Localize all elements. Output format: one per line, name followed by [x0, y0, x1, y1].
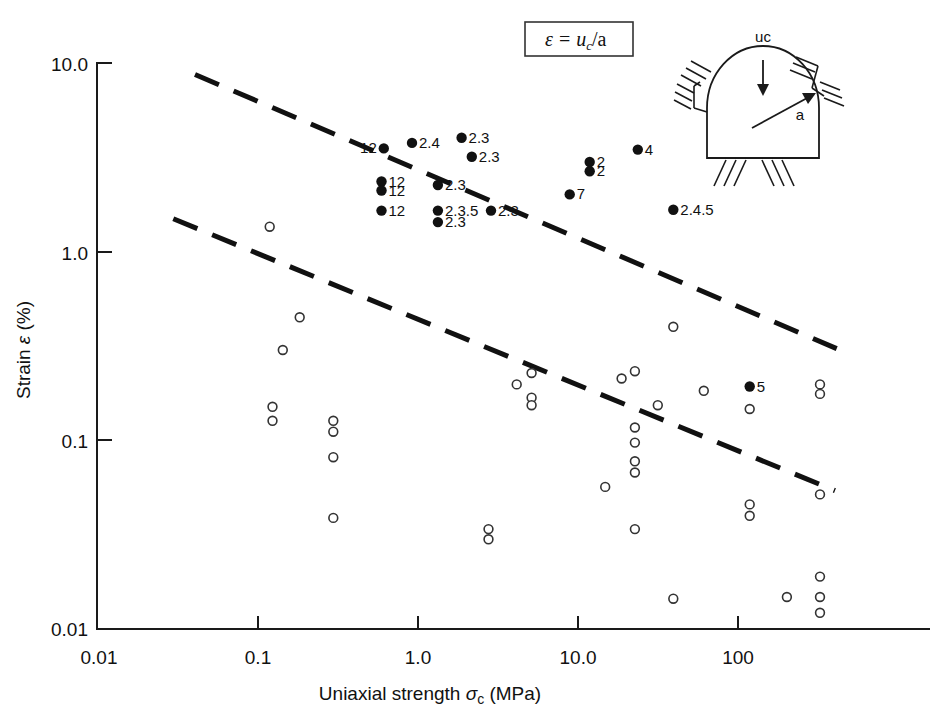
x-tick-label-2: 1.0 [405, 647, 431, 668]
filled-points-layer: 122.42.32.31212122.32.3.52.32.322742.4.5… [360, 129, 765, 395]
radius-arrow-head [802, 93, 816, 104]
y-axis-title-pre: Strain [13, 344, 34, 399]
data-point-filled-4 [376, 176, 386, 186]
equation-numerator: u [576, 28, 586, 50]
x-axis-title-post: (MPa) [484, 683, 541, 704]
svg-text:Uniaxial strength σc (MPa): Uniaxial strength σc (MPa) [319, 683, 541, 707]
data-point-open-24 [653, 401, 662, 410]
data-point-label-14: 4 [645, 141, 653, 158]
y-axis-title: Strain ε (%) [13, 301, 34, 399]
data-point-filled-2 [456, 133, 466, 143]
y-tick-label-2: 1.0 [62, 243, 88, 264]
data-point-filled-14 [633, 144, 643, 154]
data-point-label-12: 2 [597, 162, 605, 179]
data-point-open-0 [265, 222, 274, 231]
data-point-label-3: 2.3 [479, 148, 500, 165]
data-point-open-27 [745, 405, 754, 414]
data-point-open-18 [631, 423, 640, 432]
data-point-filled-0 [379, 143, 389, 153]
equation-epsilon: ε [545, 28, 553, 50]
data-point-filled-3 [467, 152, 477, 162]
data-point-open-16 [617, 374, 626, 383]
figure-root: 0.01 0.1 1.0 10.0 100 10.0 1.0 0.1 0.01 … [0, 0, 938, 716]
x-tick-label-3: 10.0 [560, 647, 597, 668]
axes-frame [97, 63, 930, 629]
data-point-label-2: 2.3 [469, 129, 490, 146]
data-point-label-10: 2.3 [498, 202, 519, 219]
data-point-filled-12 [585, 166, 595, 176]
x-tick-label-0: 0.01 [81, 647, 118, 668]
data-point-open-6 [329, 427, 338, 436]
y-tick-label-0: 0.01 [51, 619, 88, 640]
data-point-open-1 [295, 313, 304, 322]
data-point-label-16: 5 [757, 378, 765, 395]
data-point-open-17 [631, 367, 640, 376]
open-points-layer [265, 222, 824, 617]
data-point-open-35 [816, 593, 825, 602]
data-point-open-31 [816, 380, 825, 389]
equation-denominator: /a [592, 28, 607, 50]
uc-arrow-head [757, 84, 769, 96]
data-point-open-12 [527, 369, 536, 378]
data-point-filled-13 [565, 189, 575, 199]
x-axis-tick-labels: 0.01 0.1 1.0 10.0 100 [81, 647, 754, 668]
svg-text:Strain ε (%): Strain ε (%) [13, 301, 34, 399]
data-point-open-33 [816, 490, 825, 499]
data-point-label-7: 2.3 [445, 176, 466, 193]
data-point-open-25 [669, 594, 678, 603]
data-point-filled-11 [585, 157, 595, 167]
data-point-label-5: 12 [389, 182, 406, 199]
data-point-open-8 [329, 514, 338, 523]
tunnel-inset: uc a [674, 28, 844, 186]
y-tick-label-3: 10.0 [51, 54, 88, 75]
data-point-open-4 [268, 416, 277, 425]
data-point-open-23 [669, 322, 678, 331]
uc-label: uc [755, 28, 771, 45]
hatch-right [790, 57, 844, 106]
x-tick-label-1: 0.1 [245, 647, 271, 668]
y-axis-tick-labels: 10.0 1.0 0.1 0.01 [51, 54, 88, 640]
data-point-label-15: 2.4.5 [680, 201, 713, 218]
data-point-open-32 [816, 390, 825, 399]
data-point-filled-6 [376, 205, 386, 215]
x-axis-title-pre: Uniaxial strength [319, 683, 466, 704]
data-point-open-20 [631, 457, 640, 466]
data-point-open-15 [601, 483, 610, 492]
data-point-open-28 [745, 500, 754, 509]
y-axis-spine [97, 63, 112, 629]
data-point-open-30 [783, 593, 792, 602]
trendlines-layer [173, 75, 836, 491]
data-point-open-22 [631, 525, 640, 534]
y-tick-label-1: 0.1 [62, 431, 88, 452]
data-point-filled-7 [433, 180, 443, 190]
data-point-open-3 [268, 402, 277, 411]
x-tick-label-4: 100 [722, 647, 754, 668]
hatch-left [674, 61, 711, 112]
data-point-label-0: 12 [360, 139, 377, 156]
data-point-open-21 [631, 468, 640, 477]
x-axis-ticks [258, 616, 738, 629]
chart-canvas: 0.01 0.1 1.0 10.0 100 10.0 1.0 0.1 0.01 … [0, 0, 938, 716]
data-point-open-7 [329, 453, 338, 462]
data-point-open-5 [329, 416, 338, 425]
x-axis-title: Uniaxial strength σc (MPa) [319, 683, 541, 707]
data-point-open-36 [816, 608, 825, 617]
data-point-open-34 [816, 572, 825, 581]
lower-bound-dashed [173, 219, 835, 491]
data-point-label-9: 2.3 [445, 213, 466, 230]
data-point-open-29 [745, 511, 754, 520]
data-point-filled-16 [745, 381, 755, 391]
data-point-filled-8 [433, 205, 443, 215]
equation-box: ε=uc/a [525, 22, 633, 56]
sigma-subscript: c [477, 691, 484, 707]
y-axis-ticks [97, 63, 112, 440]
data-point-open-19 [631, 438, 640, 447]
data-point-open-14 [527, 401, 536, 410]
data-point-filled-15 [668, 205, 678, 215]
y-axis-title-post: (%) [13, 301, 34, 336]
equation-equals: = [559, 28, 570, 50]
data-point-open-10 [484, 535, 493, 544]
radius-label: a [796, 106, 805, 123]
data-point-filled-1 [407, 138, 417, 148]
data-point-open-11 [512, 380, 521, 389]
